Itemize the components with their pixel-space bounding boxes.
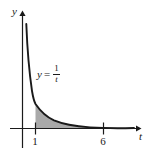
equation-fraction: 1 t: [53, 64, 60, 85]
equation-left-side: y: [37, 69, 42, 80]
curve-equation-label: y = 1 t: [37, 64, 60, 85]
y-axis-label: y: [12, 6, 17, 17]
plot-canvas: [0, 0, 152, 163]
t-axis-label: t: [139, 131, 142, 142]
y-axis-arrowhead: [19, 11, 25, 17]
fraction-numerator: 1: [53, 64, 60, 73]
tick-label-6: 6: [98, 136, 108, 147]
fraction-denominator: t: [54, 75, 59, 84]
equation-equals-sign: =: [44, 69, 50, 80]
figure-area-under-curve: y t 1 6 y = 1 t: [0, 0, 152, 163]
tick-label-1: 1: [30, 136, 40, 147]
